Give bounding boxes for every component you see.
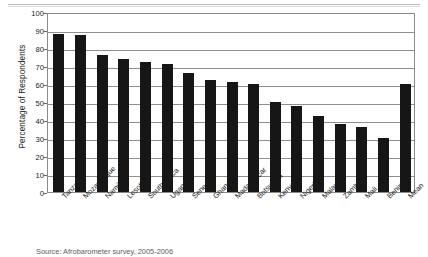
top-divider-secondary <box>8 6 420 7</box>
bar <box>378 138 389 192</box>
y-axis-tick-label: 90 <box>10 27 44 36</box>
y-axis-tick-label: 20 <box>10 153 44 162</box>
x-axis-labels: TanzaniaMozambiqueNamibiaLesothoSouth Af… <box>47 194 415 254</box>
chart-figure: Percentage of Respondents 01020304050607… <box>0 0 428 257</box>
plot-area <box>47 13 415 193</box>
y-axis-tick-label: 0 <box>10 189 44 198</box>
y-axis-tick-label: 50 <box>10 99 44 108</box>
bar <box>400 84 411 192</box>
bar <box>291 106 302 192</box>
y-axis-tick-label: 60 <box>10 81 44 90</box>
bar <box>140 62 151 192</box>
y-axis-tick-label: 100 <box>10 9 44 18</box>
bar <box>53 34 64 192</box>
y-axis-tick-label: 10 <box>10 171 44 180</box>
y-axis-tick-label: 80 <box>10 45 44 54</box>
bar <box>75 35 86 192</box>
top-divider <box>8 4 420 5</box>
source-caption: Source: Afrobarometer survey, 2005-2006 <box>36 247 173 257</box>
bar <box>183 73 194 192</box>
bar <box>227 82 238 192</box>
y-axis-tick-label: 30 <box>10 135 44 144</box>
bar-series <box>48 14 414 192</box>
bar <box>118 59 129 192</box>
y-axis-tick-label: 40 <box>10 117 44 126</box>
y-axis-tick-label: 70 <box>10 63 44 72</box>
